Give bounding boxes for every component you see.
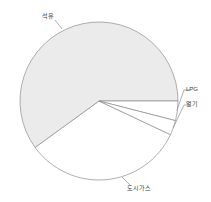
pie-chart: LPG 열기 도시가스 석유 — [0, 0, 211, 202]
pie-label-city-gas: 도시가스 — [127, 185, 151, 192]
pie-label-lpg: LPG — [186, 86, 198, 93]
pie-chart-canvas — [0, 0, 211, 202]
pie-label-heat: 열기 — [186, 101, 198, 108]
pie-label-oil: 석유 — [42, 13, 54, 20]
leader-line-oil — [55, 20, 62, 29]
